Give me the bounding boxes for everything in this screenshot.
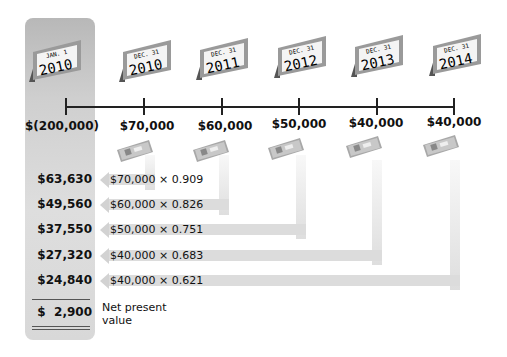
calculation-year4: $40,000 × 0.683 bbox=[110, 249, 203, 262]
present-value-year4: $27,320 bbox=[28, 248, 92, 262]
timeline-tick bbox=[298, 98, 300, 115]
cash-flow-year2: $60,000 bbox=[198, 119, 253, 133]
calculation-year1: $70,000 × 0.909 bbox=[110, 173, 203, 186]
arrowhead-icon bbox=[100, 248, 109, 264]
present-value-year1: $63,630 bbox=[28, 172, 92, 186]
arrowhead-icon bbox=[100, 197, 109, 213]
present-value-year3: $37,550 bbox=[28, 222, 92, 236]
timeline-tick bbox=[453, 98, 455, 115]
money-bill-icon bbox=[421, 133, 461, 159]
cash-flow-year4: $40,000 bbox=[349, 116, 404, 130]
cash-flow-year3: $50,000 bbox=[272, 117, 327, 131]
arrowhead-icon bbox=[100, 222, 109, 238]
money-bill-icon bbox=[344, 134, 384, 160]
arrowhead-icon bbox=[100, 273, 109, 289]
double-rule-top bbox=[32, 326, 90, 327]
double-rule-bottom bbox=[32, 329, 90, 330]
sum-rule bbox=[32, 299, 90, 300]
timeline-tick bbox=[221, 98, 223, 115]
calendar-icon-dec31-2014: DEC. 31 2014 bbox=[427, 32, 483, 76]
money-bill-icon bbox=[266, 136, 306, 162]
net-present-value: $ 2,900 bbox=[28, 305, 92, 319]
npv-label: Net present value bbox=[102, 301, 167, 327]
arrowhead-icon bbox=[100, 172, 109, 188]
npv-label-line2: value bbox=[102, 314, 167, 327]
connector-year5 bbox=[450, 160, 460, 290]
timeline-tick bbox=[65, 98, 67, 115]
calendar-icon-dec31-2011: DEC. 31 2011 bbox=[194, 36, 250, 80]
cash-flow-year5: $40,000 bbox=[427, 115, 482, 129]
timeline-axis bbox=[65, 106, 455, 108]
cash-flow-year0: $(200,000) bbox=[25, 119, 99, 133]
money-bill-icon bbox=[115, 138, 155, 164]
present-value-year5: $24,840 bbox=[28, 273, 92, 287]
present-value-year2: $49,560 bbox=[28, 197, 92, 211]
calculation-year3: $50,000 × 0.751 bbox=[110, 223, 203, 236]
cash-flow-year1: $70,000 bbox=[120, 119, 175, 133]
calendar-icon-dec31-2012: DEC. 31 2012 bbox=[272, 34, 328, 78]
npv-label-line1: Net present bbox=[102, 301, 167, 314]
timeline-tick bbox=[376, 98, 378, 115]
timeline-tick bbox=[143, 98, 145, 115]
calendar-icon-jan1-2010: JAN. 1 2010 bbox=[27, 38, 83, 82]
calculation-year2: $60,000 × 0.826 bbox=[110, 198, 203, 211]
calendar-icon-dec31-2010: DEC. 31 2010 bbox=[117, 38, 173, 82]
calculation-year5: $40,000 × 0.621 bbox=[110, 274, 203, 287]
calendar-icon-dec31-2013: DEC. 31 2013 bbox=[349, 33, 405, 77]
money-bill-icon bbox=[191, 138, 231, 164]
